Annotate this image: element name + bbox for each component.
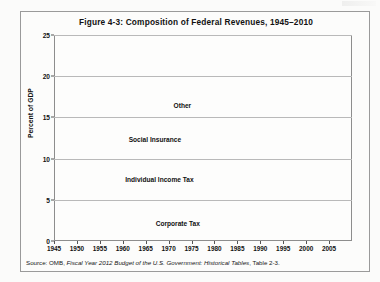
y-tick-label-25: 25: [43, 32, 50, 39]
x-tick-label-1980: 1980: [207, 245, 221, 252]
y-tick-25: [51, 35, 54, 36]
x-tick-label-1955: 1955: [93, 245, 107, 252]
x-tick-1960: [123, 241, 124, 244]
x-tick-label-1985: 1985: [230, 245, 244, 252]
y-tick-label-20: 20: [43, 73, 50, 80]
series-label-corporate-tax: Corporate Tax: [155, 220, 201, 227]
x-tick-1950: [77, 241, 78, 244]
x-tick-label-1995: 1995: [276, 245, 290, 252]
x-tick-label-1970: 1970: [162, 245, 176, 252]
x-tick-2005: [329, 241, 330, 244]
gridline-15: [54, 117, 352, 118]
scan-artifact: [342, 1, 376, 6]
source-title: Fiscal Year 2012 Budget of the U.S. Gove…: [67, 259, 250, 266]
plot-border: [54, 35, 352, 241]
y-tick-label-10: 10: [43, 155, 50, 162]
x-tick-1990: [260, 241, 261, 244]
x-tick-1995: [283, 241, 284, 244]
x-tick-label-1960: 1960: [116, 245, 130, 252]
source-suffix: , Table 2-3.: [249, 259, 280, 266]
x-tick-label-2000: 2000: [299, 245, 313, 252]
x-tick-label-1950: 1950: [70, 245, 84, 252]
y-tick-20: [51, 76, 54, 77]
y-tick-15: [51, 117, 54, 118]
x-tick-1985: [237, 241, 238, 244]
x-tick-1980: [214, 241, 215, 244]
figure-title: Figure 4-3: Composition of Federal Reven…: [21, 17, 371, 27]
y-tick-label-0: 0: [46, 238, 50, 245]
y-tick-label-5: 5: [46, 196, 50, 203]
y-tick-10: [51, 158, 54, 159]
x-tick-1975: [192, 241, 193, 244]
x-tick-1945: [54, 241, 55, 244]
series-label-other: Other: [173, 102, 193, 109]
figure-frame: Figure 4-3: Composition of Federal Reven…: [20, 11, 370, 272]
gridline-5: [54, 200, 352, 201]
x-tick-1965: [146, 241, 147, 244]
scanned-page: Figure 4-3: Composition of Federal Reven…: [0, 0, 380, 282]
series-label-social-insurance: Social Insurance: [128, 136, 182, 143]
x-tick-label-2005: 2005: [322, 245, 336, 252]
source-note: Source: OMB, Fiscal Year 2012 Budget of …: [26, 259, 280, 266]
plot-area: 0510152025 19451950195519601965197019751…: [54, 35, 352, 241]
y-tick-label-15: 15: [43, 114, 50, 121]
series-label-individual-income-tax: Individual Income Tax: [124, 176, 194, 183]
y-axis-title: Percent of GDP: [27, 88, 34, 138]
x-tick-label-1965: 1965: [139, 245, 153, 252]
x-tick-1970: [169, 241, 170, 244]
x-tick-1955: [100, 241, 101, 244]
x-tick-label-1945: 1945: [47, 245, 61, 252]
x-tick-label-1990: 1990: [253, 245, 267, 252]
x-tick-2000: [306, 241, 307, 244]
y-tick-5: [51, 199, 54, 200]
gridline-25: [54, 35, 352, 36]
gridline-10: [54, 159, 352, 160]
source-prefix: Source: OMB,: [26, 259, 67, 266]
gridline-20: [54, 76, 352, 77]
x-tick-label-1975: 1975: [184, 245, 198, 252]
